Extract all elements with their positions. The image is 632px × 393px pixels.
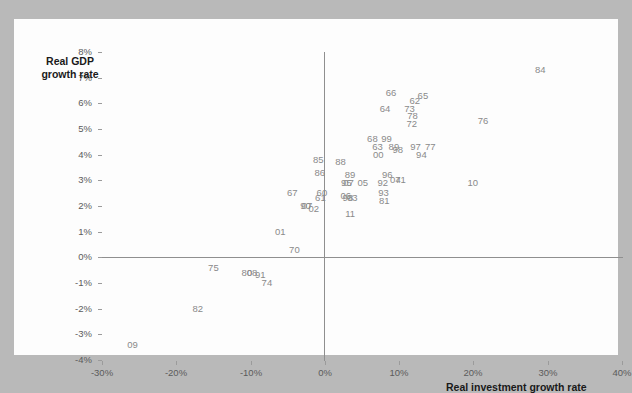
scatter-point-label: 84 — [535, 65, 546, 75]
scatter-point-label: 66 — [386, 88, 397, 98]
y-tick-mark — [98, 206, 102, 207]
x-tick-mark — [325, 361, 326, 365]
scatter-point-label: 02 — [308, 204, 319, 214]
y-tick-mark — [98, 103, 102, 104]
scatter-point-label: 81 — [379, 196, 390, 206]
y-tick-label: -4% — [52, 355, 92, 365]
x-tick-label: 40% — [599, 367, 632, 378]
scatter-point-label: 00 — [373, 150, 384, 160]
scatter-point-label: 86 — [314, 168, 325, 178]
y-tick-label: 2% — [52, 201, 92, 211]
y-tick-label: 3% — [52, 175, 92, 185]
x-axis-title: Real investment growth rate — [446, 381, 587, 393]
scatter-point-label: 64 — [380, 104, 391, 114]
scatter-point-label: 05 — [357, 178, 368, 188]
x-tick-mark — [399, 361, 400, 365]
x-tick-mark — [548, 361, 549, 365]
x-tick-mark — [102, 361, 103, 365]
y-tick-label: 5% — [52, 124, 92, 134]
y-tick-mark — [98, 232, 102, 233]
scatter-point-label: 94 — [416, 150, 427, 160]
scatter-point-label: 72 — [407, 119, 418, 129]
y-tick-mark — [98, 180, 102, 181]
x-tick-mark — [176, 361, 177, 365]
scatter-point-label: 88 — [335, 157, 346, 167]
y-tick-mark — [98, 155, 102, 156]
scatter-point-label: 71 — [395, 175, 406, 185]
y-tick-label: 1% — [52, 227, 92, 237]
scatter-point-label: 07 — [343, 178, 354, 188]
y-tick-mark — [98, 334, 102, 335]
y-tick-mark — [98, 52, 102, 53]
y-tick-label: 6% — [52, 98, 92, 108]
x-tick-label: 10% — [376, 367, 422, 378]
scatter-plot: 8%7%6%5%4%3%2%1%0%-1%-2%-3%-4% -30%-20%-… — [14, 19, 618, 355]
x-tick-label: -30% — [79, 367, 125, 378]
x-tick-mark — [622, 361, 623, 365]
scatter-point-label: 03 — [347, 193, 358, 203]
x-tick-label: -10% — [228, 367, 274, 378]
y-tick-mark — [98, 129, 102, 130]
scatter-point-label: 10 — [467, 178, 478, 188]
scatter-point-label: 01 — [275, 227, 286, 237]
y-tick-label: -3% — [52, 329, 92, 339]
chart-card: 8%7%6%5%4%3%2%1%0%-1%-2%-3%-4% -30%-20%-… — [14, 19, 618, 355]
y-axis-title-line1: Real GDP — [46, 55, 94, 67]
y-tick-mark — [98, 257, 102, 258]
scatter-point-label: 85 — [313, 155, 324, 165]
y-tick-label: 4% — [52, 150, 92, 160]
x-axis-line — [102, 257, 623, 258]
scatter-point-label: 75 — [208, 263, 219, 273]
scatter-point-label: 74 — [262, 278, 273, 288]
y-axis-title-line2: growth rate — [41, 68, 98, 80]
scatter-point-label: 82 — [193, 304, 204, 314]
y-tick-label: -1% — [52, 278, 92, 288]
scatter-point-label: 98 — [392, 145, 403, 155]
y-tick-mark — [98, 283, 102, 284]
x-tick-label: -20% — [153, 367, 199, 378]
y-tick-mark — [98, 309, 102, 310]
scatter-point-label: 11 — [345, 209, 355, 219]
y-tick-label: 0% — [52, 252, 92, 262]
scatter-point-label: 70 — [289, 245, 300, 255]
scatter-point-label: 67 — [287, 188, 298, 198]
y-axis-line — [324, 52, 325, 361]
y-axis-title: Real GDP growth rate — [32, 55, 108, 81]
x-tick-mark — [473, 361, 474, 365]
x-tick-label: 30% — [525, 367, 571, 378]
scatter-point-label: 76 — [478, 116, 489, 126]
scatter-point-label: 09 — [127, 340, 138, 350]
x-tick-label: 0% — [302, 367, 348, 378]
y-tick-label: -2% — [52, 304, 92, 314]
x-tick-mark — [251, 361, 252, 365]
x-tick-label: 20% — [450, 367, 496, 378]
